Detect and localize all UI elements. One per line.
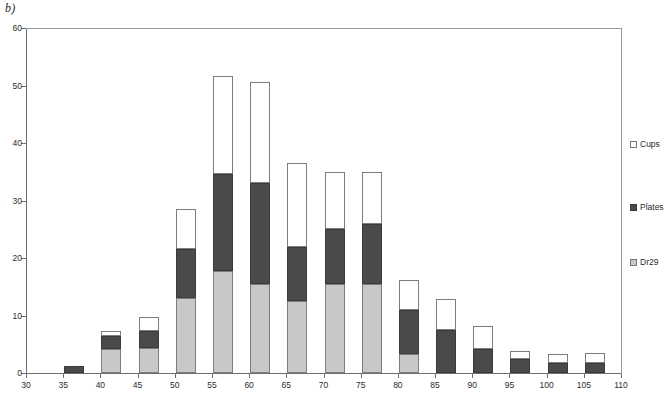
bar-stack bbox=[362, 172, 382, 373]
x-axis-tick-label: 45 bbox=[123, 381, 153, 390]
x-axis-tick-label: 40 bbox=[85, 381, 115, 390]
bar-stack bbox=[64, 366, 84, 373]
legend-label: Dr29 bbox=[640, 258, 658, 267]
y-axis-tick-label: 40 bbox=[4, 139, 22, 148]
x-axis-tick-label: 105 bbox=[569, 381, 599, 390]
bar-segment-cups bbox=[585, 353, 605, 362]
bar-segment-plates bbox=[64, 366, 84, 373]
bar-stack bbox=[250, 82, 270, 373]
x-axis-tick bbox=[212, 374, 213, 378]
plot-area bbox=[26, 28, 621, 373]
bar-segment-plates bbox=[510, 359, 530, 373]
bar-segment-cups bbox=[473, 326, 493, 350]
dark-gray-square-icon bbox=[630, 204, 637, 211]
figure-panel-b: b) 0102030405060 30354045505560657075808… bbox=[0, 0, 668, 394]
bar-stack bbox=[287, 163, 307, 373]
y-axis-tick-label: 30 bbox=[4, 197, 22, 206]
bar-stack bbox=[548, 354, 568, 373]
x-axis-tick bbox=[547, 374, 548, 378]
legend-label: Plates bbox=[640, 203, 664, 212]
x-axis-tick-label: 110 bbox=[606, 381, 636, 390]
x-axis-tick-label: 100 bbox=[532, 381, 562, 390]
bar-segment-cups bbox=[548, 354, 568, 363]
x-axis-tick bbox=[286, 374, 287, 378]
x-axis-tick-label: 90 bbox=[457, 381, 487, 390]
bar-segment-dr29 bbox=[101, 349, 121, 373]
bar-segment-cups bbox=[287, 163, 307, 247]
x-axis-tick bbox=[138, 374, 139, 378]
bar-stack bbox=[436, 299, 456, 373]
bar-segment-cups bbox=[250, 82, 270, 183]
panel-label: b) bbox=[5, 1, 15, 16]
bar-segment-plates bbox=[585, 363, 605, 373]
x-axis-tick bbox=[100, 374, 101, 378]
bar-segment-dr29 bbox=[287, 301, 307, 373]
x-axis-tick bbox=[324, 374, 325, 378]
bar-segment-cups bbox=[176, 209, 196, 249]
legend-label: Cups bbox=[640, 140, 660, 149]
light-gray-square-icon bbox=[630, 259, 637, 266]
x-axis-tick bbox=[398, 374, 399, 378]
bar-segment-plates bbox=[325, 229, 345, 284]
y-axis-tick-label: 10 bbox=[4, 312, 22, 321]
bar-segment-dr29 bbox=[362, 284, 382, 373]
x-axis-tick bbox=[26, 374, 27, 378]
bar-segment-cups bbox=[101, 331, 121, 336]
bar-stack bbox=[213, 76, 233, 373]
legend-item-cups[interactable]: Cups bbox=[630, 140, 660, 149]
x-axis-tick-label: 65 bbox=[271, 381, 301, 390]
y-axis-tick-label: 50 bbox=[4, 82, 22, 91]
bar-stack bbox=[176, 209, 196, 373]
bar-segment-plates bbox=[473, 349, 493, 373]
bar-segment-cups bbox=[325, 172, 345, 230]
bar-segment-plates bbox=[101, 336, 121, 349]
x-axis-tick bbox=[175, 374, 176, 378]
x-axis-tick-label: 85 bbox=[420, 381, 450, 390]
x-axis-tick bbox=[509, 374, 510, 378]
bar-segment-plates bbox=[139, 331, 159, 348]
y-axis-tick-label: 60 bbox=[4, 24, 22, 33]
legend-item-dr29[interactable]: Dr29 bbox=[630, 258, 658, 267]
x-axis-tick-label: 50 bbox=[160, 381, 190, 390]
x-axis-tick bbox=[63, 374, 64, 378]
bar-segment-cups bbox=[436, 299, 456, 330]
bar-segment-plates bbox=[362, 224, 382, 284]
x-axis-tick-label: 30 bbox=[11, 381, 41, 390]
x-axis-tick-label: 95 bbox=[494, 381, 524, 390]
bar-segment-plates bbox=[287, 247, 307, 302]
bar-stack bbox=[510, 351, 530, 373]
x-axis-tick-label: 35 bbox=[48, 381, 78, 390]
x-axis-tick-label: 75 bbox=[346, 381, 376, 390]
x-axis-tick bbox=[472, 374, 473, 378]
bar-segment-plates bbox=[548, 363, 568, 373]
x-axis-tick bbox=[435, 374, 436, 378]
legend-item-plates[interactable]: Plates bbox=[630, 203, 664, 212]
bar-segment-cups bbox=[399, 280, 419, 310]
legend: CupsPlatesDr29 bbox=[630, 28, 668, 374]
x-axis-tick bbox=[584, 374, 585, 378]
bar-segment-dr29 bbox=[250, 284, 270, 373]
y-axis-tick-label: 0 bbox=[4, 369, 22, 378]
x-axis-tick bbox=[621, 374, 622, 378]
bar-segment-plates bbox=[213, 174, 233, 271]
bar-segment-cups bbox=[139, 317, 159, 331]
bar-stack bbox=[585, 353, 605, 373]
bar-stack bbox=[473, 326, 493, 373]
bar-segment-plates bbox=[436, 330, 456, 373]
x-axis-tick-label: 60 bbox=[234, 381, 264, 390]
x-axis-tick-label: 80 bbox=[383, 381, 413, 390]
x-axis-tick-label: 70 bbox=[309, 381, 339, 390]
bar-segment-cups bbox=[362, 172, 382, 224]
bar-segment-dr29 bbox=[325, 284, 345, 373]
x-axis-tick bbox=[361, 374, 362, 378]
bar-segment-plates bbox=[399, 310, 419, 354]
y-axis-tick-label: 20 bbox=[4, 254, 22, 263]
bar-segment-cups bbox=[510, 351, 530, 359]
bar-segment-plates bbox=[250, 183, 270, 284]
bar-segment-dr29 bbox=[213, 271, 233, 373]
white-square-icon bbox=[630, 141, 637, 148]
bar-stack bbox=[399, 280, 419, 373]
bar-segment-cups bbox=[213, 76, 233, 174]
x-axis-tick-label: 55 bbox=[197, 381, 227, 390]
bar-stack bbox=[325, 172, 345, 373]
